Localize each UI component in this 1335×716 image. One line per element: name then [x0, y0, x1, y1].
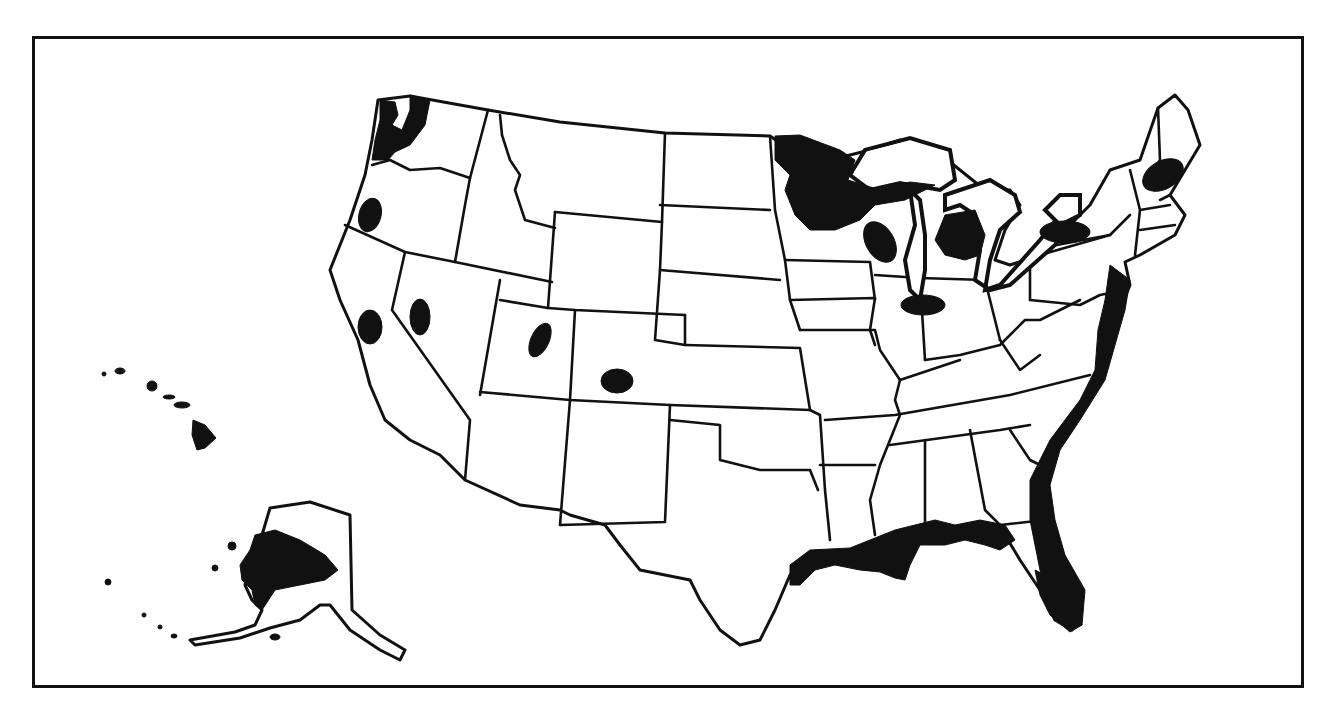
- shaded-ny: [1040, 221, 1090, 243]
- shaded-ca: [358, 310, 382, 344]
- hawaii: [102, 368, 216, 450]
- alaska: [105, 502, 405, 660]
- shaded-il-in: [901, 295, 945, 315]
- us-map: [0, 0, 1335, 716]
- shaded-nv: [410, 299, 430, 335]
- shaded-co: [601, 369, 633, 393]
